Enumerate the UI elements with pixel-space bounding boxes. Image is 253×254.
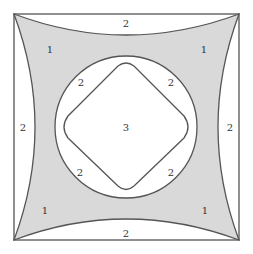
- label-bottom-strip: 2: [123, 228, 129, 239]
- label-ring-top-left: 2: [78, 77, 84, 88]
- label-ring-top-right: 2: [168, 77, 174, 88]
- label-left-strip: 2: [20, 122, 26, 133]
- label-shaded-top-right: 1: [201, 44, 207, 55]
- region-diagram: 2 2 2 2 1 1 1 1 2 2 2 2 3: [0, 0, 253, 254]
- label-shaded-top-left: 1: [47, 44, 53, 55]
- diagram-canvas: 2 2 2 2 1 1 1 1 2 2 2 2 3: [0, 0, 253, 254]
- label-right-strip: 2: [227, 122, 233, 133]
- label-ring-bottom-left: 2: [77, 167, 83, 178]
- label-shaded-bottom-left: 1: [42, 205, 48, 216]
- label-top-strip: 2: [123, 18, 129, 29]
- label-center: 3: [123, 122, 129, 133]
- label-ring-bottom-right: 2: [168, 167, 174, 178]
- label-shaded-bottom-right: 1: [202, 205, 208, 216]
